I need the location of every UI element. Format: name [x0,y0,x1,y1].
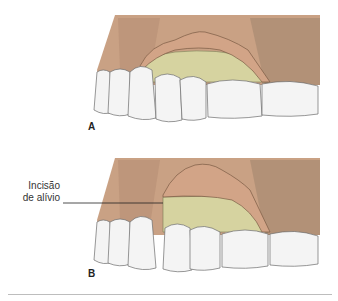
panel-label-a: A [88,121,95,132]
dental-illustration-b [0,150,338,295]
callout-line-2: de alívio [10,192,60,204]
panel-a: A [0,0,338,150]
panel-b: Incisão de alívio B [0,150,338,295]
bottom-divider [8,294,332,295]
callout-line-1: Incisão [10,180,60,192]
dental-illustration-a [0,0,338,150]
panel-label-b: B [88,268,95,279]
relief-incision-label: Incisão de alívio [10,180,60,204]
